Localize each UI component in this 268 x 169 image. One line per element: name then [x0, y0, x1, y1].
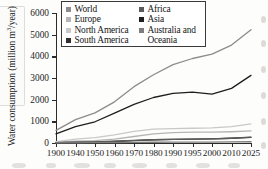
legend-item[interactable]: Australia and — [139, 25, 202, 35]
legend-item-label: Europe — [75, 14, 101, 24]
chart-legend: WorldEuropeNorth AmericaSouth America Af… — [61, 1, 206, 47]
series-line-europe — [56, 131, 251, 142]
legend-item[interactable]: Africa — [139, 4, 202, 14]
legend-item-label-continuation: Oceania — [139, 35, 177, 45]
chart-screenshot: Water consumption (million m3/year) 0100… — [0, 0, 268, 169]
legend-swatch-icon — [139, 17, 144, 22]
legend-item-label: Asia — [147, 14, 164, 24]
legend-swatch-icon — [139, 28, 144, 33]
legend-item-label: South America — [75, 35, 129, 45]
legend-swatch-icon — [66, 7, 71, 12]
legend-item-label: Australia and — [147, 25, 195, 35]
legend-column-left: WorldEuropeNorth AmericaSouth America — [66, 4, 139, 46]
legend-swatch-icon — [66, 38, 71, 43]
series-line-asia — [56, 75, 251, 133]
legend-item[interactable]: Europe — [66, 14, 139, 24]
legend-item-label: World — [75, 4, 97, 14]
legend-item-label: North America — [75, 25, 129, 35]
legend-item[interactable]: South America — [66, 35, 139, 45]
legend-swatch-icon — [66, 17, 71, 22]
legend-column-right: AfricaAsiaAustralia andOceania — [139, 4, 202, 46]
legend-item[interactable]: World — [66, 4, 139, 14]
legend-swatch-icon — [66, 28, 71, 33]
legend-item[interactable]: Asia — [139, 14, 202, 24]
legend-item-continuation: Oceania — [139, 35, 202, 45]
legend-item[interactable]: North America — [66, 25, 139, 35]
legend-swatch-icon — [139, 7, 144, 12]
legend-item-label: Africa — [147, 4, 170, 14]
